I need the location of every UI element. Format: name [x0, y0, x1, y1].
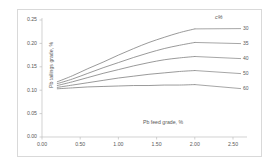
plot-canvas	[0, 0, 279, 166]
legend-leader-lines	[195, 29, 241, 89]
line-chart: 0.00 0.05 0.10 0.15 0.20 0.25 0.00 0.50 …	[0, 0, 279, 166]
data-series-group	[57, 29, 195, 89]
x-tick-marks	[42, 137, 233, 140]
y-tick-marks	[40, 20, 43, 137]
